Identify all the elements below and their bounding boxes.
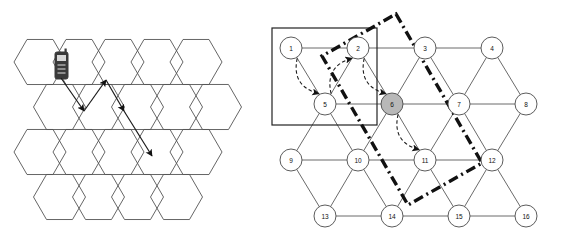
- hex-cell: [190, 84, 242, 129]
- lattice-node-10[interactable]: 10: [347, 149, 369, 171]
- node-label: 1: [289, 45, 293, 52]
- lattice-node-11[interactable]: 11: [414, 149, 436, 171]
- lattice-node-13[interactable]: 13: [314, 205, 336, 227]
- node-label: 16: [522, 213, 530, 220]
- node-label: 3: [423, 45, 427, 52]
- hex-cell: [131, 129, 183, 174]
- phone-keypad-row: [58, 68, 66, 70]
- handover-arrow-path: [61, 78, 152, 156]
- lattice-node-15[interactable]: 15: [448, 205, 470, 227]
- node-label: 11: [422, 157, 429, 164]
- hex-cell: [112, 174, 164, 219]
- lattice-node-16[interactable]: 16: [515, 205, 537, 227]
- hexagon-grid: [14, 39, 242, 219]
- hex-cell: [14, 129, 66, 174]
- lattice-node-5[interactable]: 5: [314, 93, 336, 115]
- phone-screen: [57, 55, 66, 61]
- hex-cell: [151, 174, 203, 219]
- node-label: 12: [488, 157, 496, 164]
- node-label: 14: [388, 213, 396, 220]
- lattice-node-9[interactable]: 9: [280, 149, 302, 171]
- handover-arrow: [124, 111, 152, 156]
- node-label: 13: [321, 213, 329, 220]
- node-label: 4: [490, 45, 494, 52]
- lattice-graph-panel: 12345678910111213141516: [265, 0, 573, 246]
- node-label: 6: [390, 101, 394, 108]
- hex-cell: [73, 174, 125, 219]
- phone-keypad-row: [58, 64, 66, 66]
- handover-arrow: [61, 78, 84, 111]
- hex-cell: [92, 129, 144, 174]
- hex-cell: [34, 84, 86, 129]
- node-label: 10: [354, 157, 362, 164]
- hex-cell: [34, 174, 86, 219]
- lattice-node-14[interactable]: 14: [381, 205, 403, 227]
- node-label: 7: [457, 101, 461, 108]
- phone-antenna: [65, 49, 67, 55]
- node-label: 15: [455, 213, 463, 220]
- lattice-node-8[interactable]: 8: [515, 93, 537, 115]
- lattice-node-12[interactable]: 12: [481, 149, 503, 171]
- figure-root: 12345678910111213141516: [0, 0, 573, 246]
- mobile-phone-icon: [55, 49, 68, 80]
- lattice-node-2[interactable]: 2: [347, 37, 369, 59]
- hex-cell: [170, 129, 222, 174]
- lattice-edges: [291, 48, 526, 216]
- cellular-honeycomb-panel: [0, 0, 286, 246]
- hex-cell: [112, 84, 164, 129]
- hex-cell: [53, 129, 105, 174]
- hex-cell: [170, 39, 222, 84]
- lattice-node-4[interactable]: 4: [481, 37, 503, 59]
- hex-cell: [92, 39, 144, 84]
- node-label: 2: [356, 45, 360, 52]
- hex-cell: [131, 39, 183, 84]
- lattice-node-1[interactable]: 1: [280, 37, 302, 59]
- hex-cell: [151, 84, 203, 129]
- phone-keypad-row: [58, 72, 66, 74]
- lattice-node-7[interactable]: 7: [448, 93, 470, 115]
- node-label: 8: [524, 101, 528, 108]
- lattice-node-3[interactable]: 3: [414, 37, 436, 59]
- node-label: 9: [289, 157, 293, 164]
- lattice-node-6[interactable]: 6: [381, 93, 403, 115]
- node-label: 5: [323, 101, 327, 108]
